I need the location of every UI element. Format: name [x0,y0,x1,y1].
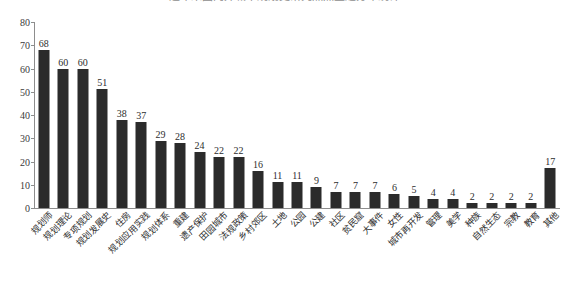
bar [408,196,419,208]
y-tick-label-10: 10 [20,179,30,190]
bar-series: 6860605138372928242222161111977765442222… [34,22,560,208]
bar [486,203,497,208]
bar-value-label: 29 [156,129,166,140]
x-axis-label-12: 土地 [269,210,289,230]
bar-value-label: 2 [470,191,475,202]
bar-group: 24 [190,22,209,208]
bar [253,171,264,208]
bar [369,192,380,208]
bar-value-label: 17 [545,156,555,167]
bar-value-label: 7 [353,180,358,191]
bar [38,50,49,208]
bar-group: 38 [112,22,131,208]
bar-group: 7 [365,22,384,208]
bar [175,143,186,208]
bar [506,203,517,208]
bar [136,122,147,208]
bar [58,69,69,209]
bar-group: 17 [541,22,560,208]
y-tick-mark-0 [31,208,34,209]
bar-group: 6 [385,22,404,208]
bar-value-label: 16 [253,159,263,170]
bar-group: 28 [170,22,189,208]
bar-group: 29 [151,22,170,208]
bar-value-label: 68 [39,38,49,49]
chart-title-clipped: 近年来国内外城市规划史研究热点主题分布统计 [0,0,568,3]
x-axis-label-25: 教育 [522,210,542,230]
x-axis-label-24: 宗教 [503,210,523,230]
x-axis-label-20: 管理 [425,210,445,230]
bar [155,141,166,208]
bar-value-label: 38 [117,108,127,119]
bar-group: 5 [404,22,423,208]
bar-group: 2 [502,22,521,208]
bar-value-label: 7 [372,180,377,191]
bar-group: 2 [482,22,501,208]
y-tick-label-70: 70 [20,40,30,51]
bar-group: 68 [34,22,53,208]
bar-group: 22 [209,22,228,208]
bar [467,203,478,208]
bar-value-label: 22 [234,145,244,156]
bar [116,120,127,208]
bar-group: 9 [307,22,326,208]
x-axis-label-14: 公建 [308,210,328,230]
bar-group: 37 [131,22,150,208]
bar-value-label: 28 [175,131,185,142]
bar-value-label: 24 [195,140,205,151]
bar-group: 60 [53,22,72,208]
bar [428,199,439,208]
x-axis-label-26: 其他 [542,210,562,230]
y-tick-label-40: 40 [20,110,30,121]
bar-group: 7 [346,22,365,208]
bar-group: 2 [463,22,482,208]
bar-value-label: 51 [97,77,107,88]
bar [272,182,283,208]
bar-value-label: 60 [58,57,68,68]
bar [233,157,244,208]
bar [525,203,536,208]
x-axis-labels: 规划师规划理论专项规划规划发展史住房规划应用实践规划体系重建遗产保护田园城市法规… [34,210,560,290]
x-axis-label-13: 公园 [288,210,308,230]
x-axis-line [34,208,560,209]
y-tick-label-20: 20 [20,156,30,167]
bar-value-label: 4 [431,187,436,198]
bar-value-label: 60 [78,57,88,68]
y-tick-label-30: 30 [20,133,30,144]
bar-value-label: 2 [489,191,494,202]
bar [447,199,458,208]
bar-value-label: 7 [333,180,338,191]
bar-value-label: 2 [509,191,514,202]
x-axis-label-21: 美学 [444,210,464,230]
bar-value-label: 5 [411,184,416,195]
bar-value-label: 11 [292,170,302,181]
bar-value-label: 9 [314,175,319,186]
bar-value-label: 6 [392,182,397,193]
bar [291,182,302,208]
y-tick-label-80: 80 [20,17,30,28]
y-tick-label-50: 50 [20,86,30,97]
bar-value-label: 2 [528,191,533,202]
bar [311,187,322,208]
y-tick-label-60: 60 [20,63,30,74]
bar [330,192,341,208]
bar [97,89,108,208]
bar-group: 2 [521,22,540,208]
bar-group: 11 [287,22,306,208]
bar [214,157,225,208]
bar-group: 4 [443,22,462,208]
bar-group: 4 [424,22,443,208]
bar-value-label: 37 [136,110,146,121]
bar-value-label: 4 [450,187,455,198]
bar-value-label: 22 [214,145,224,156]
bar-group: 22 [229,22,248,208]
chart-title: 近年来国内外城市规划史研究热点主题分布统计 [0,0,568,3]
y-tick-label-0: 0 [25,203,30,214]
bar [194,152,205,208]
bar-chart: 近年来国内外城市规划史研究热点主题分布统计 01020304050607080 … [0,0,568,290]
bar-group: 7 [326,22,345,208]
bar [350,192,361,208]
bar-group: 60 [73,22,92,208]
bar-group: 11 [268,22,287,208]
bar [389,194,400,208]
